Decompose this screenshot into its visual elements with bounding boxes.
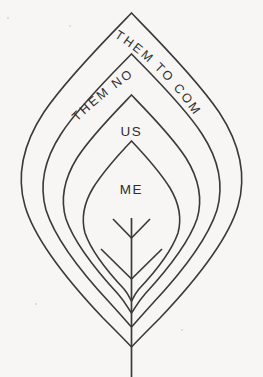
paper-speck (7, 17, 9, 19)
paper-speck (181, 329, 183, 331)
label-me: ME (120, 182, 143, 197)
nested-leaf-diagram: THEM TO COME THEM NOW US ME (0, 0, 263, 377)
label-us: US (121, 124, 143, 139)
paper-speck (69, 25, 71, 27)
diagram-canvas: THEM TO COME THEM NOW US ME (0, 0, 263, 377)
paper-speck (35, 303, 37, 305)
